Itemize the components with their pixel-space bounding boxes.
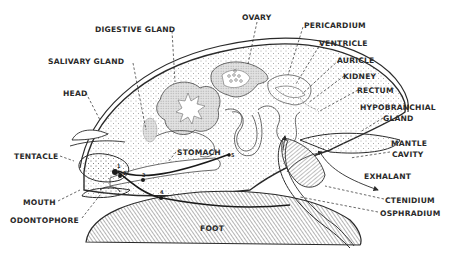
label-osphradium: OSPHRADIUM — [380, 209, 440, 218]
label-exhalant: EXHALANT — [364, 172, 411, 181]
label-head: HEAD — [63, 89, 88, 98]
label-rectum: RECTUM — [357, 86, 394, 95]
label-salivary-gland: SALIVARY GLAND — [48, 57, 124, 66]
label-kidney: KIDNEY — [343, 72, 376, 81]
label-stomach: STOMACH — [177, 148, 221, 157]
ganglion-number-1: 1 — [117, 163, 120, 169]
ganglion-number-3: 3 — [142, 172, 145, 178]
ganglion-number-2: 2 — [123, 170, 126, 176]
label-tentacle: TENTACLE — [14, 152, 58, 161]
foot-organ — [86, 191, 361, 245]
label-mantle: MANTLE — [391, 139, 427, 148]
label-foot: FOOT — [200, 224, 224, 233]
label-hypobranchial-gland: GLAND — [383, 114, 414, 123]
label-digestive-gland: DIGESTIVE GLAND — [95, 25, 175, 34]
label-ctenidium: CTENIDIUM — [385, 196, 435, 205]
ganglion-number-4: 4 — [160, 189, 163, 195]
label-odontophore: ODONTOPHORE — [10, 216, 79, 225]
label-mouth: MOUTH — [23, 198, 56, 207]
label-hypobranchial: HYPOBRANCHIAL — [360, 103, 436, 112]
label-pericardium: PERICARDIUM — [304, 21, 366, 30]
label-auricle: AURICLE — [337, 56, 374, 65]
label-ventricle: VENTRICLE — [319, 39, 368, 48]
ganglion-number-5: 5 — [231, 152, 234, 158]
label-ovary: OVARY — [242, 13, 271, 22]
anatomy-diagram: DIGESTIVE GLAND OVARY PERICARDIUM VENTRI… — [0, 0, 453, 261]
label-mantle-cavity: CAVITY — [392, 150, 424, 159]
